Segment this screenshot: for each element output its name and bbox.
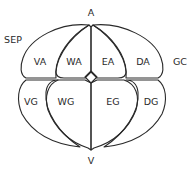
label-dg: DG <box>144 96 159 107</box>
vegetal-hemisphere <box>19 80 166 150</box>
label-gc: GC <box>173 56 187 67</box>
label-ea: EA <box>102 56 115 67</box>
label-va: VA <box>34 56 47 67</box>
label-vegetal-pole: V <box>88 155 95 166</box>
cell-wg <box>46 80 91 150</box>
label-vg: VG <box>24 96 38 107</box>
cell-da <box>93 25 163 78</box>
animal-hemisphere <box>21 25 163 78</box>
cell-ea <box>91 25 126 78</box>
label-da: DA <box>136 56 150 67</box>
label-wg: WG <box>58 96 75 107</box>
embryo-cell-diagram: A V SEP GC VA WA EA DA VG WG EG DG <box>0 0 195 172</box>
label-wa: WA <box>66 56 82 67</box>
cell-wa <box>56 25 91 78</box>
label-animal-pole: A <box>88 7 95 18</box>
label-eg: EG <box>106 96 119 107</box>
label-sep: SEP <box>4 34 22 45</box>
